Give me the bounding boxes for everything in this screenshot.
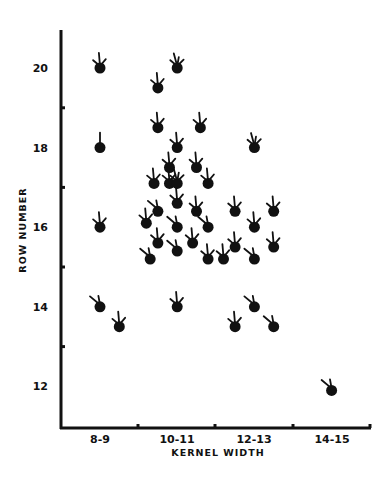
- data-point: [151, 228, 164, 248]
- data-point: [244, 248, 260, 264]
- scatter-chart: 1214161820 ROW NUMBER 8-910-1112-1314-15…: [0, 0, 390, 482]
- x-axis-title: KERNEL WIDTH: [171, 447, 264, 458]
- data-point: [147, 169, 160, 189]
- data-point: [151, 113, 164, 134]
- data-point: [322, 380, 338, 396]
- data-point: [167, 240, 183, 256]
- data-point: [267, 196, 280, 216]
- data-point: [201, 244, 214, 264]
- data-point: [95, 133, 106, 154]
- data-point: [190, 153, 203, 174]
- data-point: [267, 232, 280, 253]
- x-tick-label: 10-11: [159, 433, 194, 446]
- y-tick-label: 18: [33, 142, 48, 155]
- data-point: [248, 212, 261, 233]
- data-point: [264, 316, 280, 332]
- x-tick-label: 8-9: [90, 433, 110, 446]
- data-point: [201, 169, 214, 189]
- data-point: [217, 244, 230, 264]
- data-point: [228, 312, 241, 333]
- data-point: [170, 292, 183, 313]
- data-points: [90, 53, 337, 396]
- data-point: [170, 188, 183, 208]
- data-point: [228, 196, 241, 216]
- data-point: [148, 200, 164, 216]
- data-point: [93, 53, 106, 74]
- data-point: [244, 296, 260, 312]
- data-point: [248, 133, 261, 153]
- y-tick-label: 12: [33, 380, 48, 393]
- y-tick-labels: 1214161820: [33, 62, 49, 393]
- data-point: [167, 216, 183, 232]
- data-point: [90, 296, 106, 312]
- data-point: [170, 133, 183, 154]
- data-point: [194, 113, 207, 134]
- data-point: [140, 248, 155, 264]
- x-tick-label: 12-13: [236, 433, 271, 446]
- data-point: [112, 312, 125, 333]
- x-tick-labels: 8-910-1112-1314-15: [90, 433, 350, 446]
- x-tick-label: 14-15: [314, 433, 349, 446]
- y-tick-label: 20: [33, 62, 49, 75]
- data-point: [198, 216, 213, 232]
- data-point: [139, 208, 152, 228]
- data-point: [190, 196, 203, 216]
- data-point: [93, 212, 106, 233]
- y-axis-title: ROW NUMBER: [17, 187, 28, 272]
- y-tick-label: 14: [33, 301, 49, 314]
- data-point: [170, 53, 183, 73]
- y-tick-label: 16: [33, 221, 49, 234]
- data-point: [151, 73, 164, 94]
- y-axis: 1214161820 ROW NUMBER: [17, 30, 65, 429]
- data-point: [186, 228, 199, 248]
- x-axis: 8-910-1112-1314-15 KERNEL WIDTH: [60, 424, 371, 458]
- data-point: [228, 232, 241, 253]
